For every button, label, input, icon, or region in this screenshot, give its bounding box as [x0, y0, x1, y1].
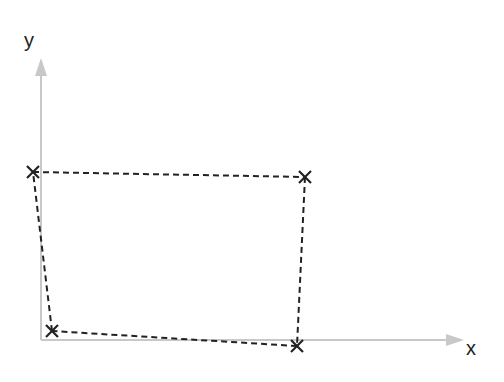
dashed-edge	[33, 172, 305, 177]
dashed-edge	[33, 172, 52, 331]
diagram-svg	[0, 0, 504, 382]
y-axis-label: y	[24, 30, 34, 50]
axes	[35, 58, 464, 346]
y-axis-arrow-icon	[35, 58, 47, 76]
dashed-edge	[52, 331, 297, 346]
dashed-edge	[297, 177, 305, 346]
diagram-canvas: y x	[0, 0, 504, 382]
x-axis-label: x	[466, 338, 476, 358]
quadrilateral-edges	[33, 172, 305, 346]
x-axis-arrow-icon	[446, 334, 464, 346]
point-markers	[27, 166, 311, 352]
